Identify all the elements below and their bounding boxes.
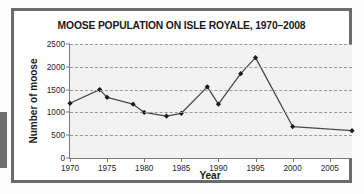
y-gridline xyxy=(70,67,352,68)
x-tick-mark xyxy=(218,158,219,162)
y-tick-label: 2500 xyxy=(47,40,65,49)
data-point-marker xyxy=(164,113,169,118)
chart-title: MOOSE POPULATION ON ISLE ROYALE, 1970–20… xyxy=(14,20,349,31)
data-point-marker xyxy=(349,128,354,133)
y-tick-mark xyxy=(66,89,70,90)
x-tick-mark xyxy=(107,158,108,162)
y-gridline xyxy=(70,90,352,91)
x-tick-mark xyxy=(330,158,331,162)
page-edge-strip xyxy=(0,112,7,168)
y-gridline xyxy=(70,112,352,113)
y-tick-label: 1000 xyxy=(47,108,65,117)
y-gridline xyxy=(70,44,352,45)
page-canvas: MOOSE POPULATION ON ISLE ROYALE, 1970–20… xyxy=(0,0,364,194)
data-point-marker xyxy=(290,124,295,129)
chart-figure-frame: MOOSE POPULATION ON ISLE ROYALE, 1970–20… xyxy=(11,8,352,183)
y-axis-title: Number of moose xyxy=(28,44,42,158)
data-point-marker xyxy=(67,101,72,106)
x-axis-title: Year xyxy=(69,170,351,181)
x-tick-mark xyxy=(181,158,182,162)
x-tick-mark xyxy=(293,158,294,162)
y-tick-label: 2000 xyxy=(47,62,65,71)
y-tick-mark xyxy=(66,44,70,45)
x-tick-mark xyxy=(70,158,71,162)
y-tick-label: 500 xyxy=(51,131,65,140)
y-gridline xyxy=(70,135,352,136)
data-series-line xyxy=(70,44,352,158)
plot-area: 0500100015002000250019701975198019851990… xyxy=(69,44,352,159)
y-tick-mark xyxy=(66,112,70,113)
x-tick-mark xyxy=(256,158,257,162)
y-tick-mark xyxy=(66,135,70,136)
x-tick-mark xyxy=(144,158,145,162)
y-tick-label: 0 xyxy=(60,154,65,163)
y-tick-mark xyxy=(66,66,70,67)
y-tick-label: 1500 xyxy=(47,85,65,94)
